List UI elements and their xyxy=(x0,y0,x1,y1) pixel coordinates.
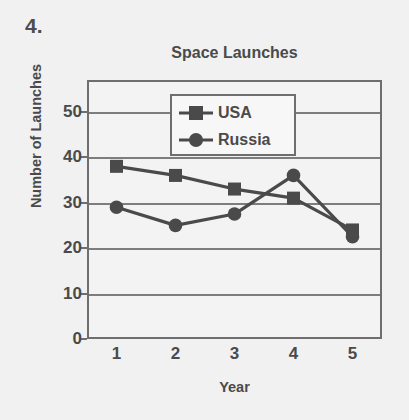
y-axis-tick-labels: 01020304050 xyxy=(38,80,82,339)
data-point-russia-2 xyxy=(169,219,183,233)
x-tick-label-1: 1 xyxy=(97,344,137,364)
x-axis-tick-labels: 12345 xyxy=(87,344,382,372)
y-tick-label-30: 30 xyxy=(42,193,82,213)
x-tick-label-3: 3 xyxy=(215,344,255,364)
legend-item-usa: USA xyxy=(172,99,294,126)
data-point-usa-2 xyxy=(169,169,182,182)
data-point-russia-1 xyxy=(110,200,124,214)
legend-marker-square-icon xyxy=(178,103,214,123)
legend-item-russia: Russia xyxy=(172,126,294,153)
x-axis-title: Year xyxy=(87,379,382,395)
data-point-usa-4 xyxy=(287,192,300,205)
y-tick-label-20: 20 xyxy=(42,238,82,258)
legend-label-usa: USA xyxy=(218,104,252,122)
data-point-russia-5 xyxy=(346,230,360,244)
legend-label-russia: Russia xyxy=(218,131,270,149)
legend-marker-circle-icon xyxy=(178,130,214,150)
data-point-usa-1 xyxy=(110,160,123,173)
x-tick-label-2: 2 xyxy=(156,344,196,364)
worksheet-page: 4. Space Launches Number of Launches Yea… xyxy=(0,0,409,420)
x-tick-label-5: 5 xyxy=(333,344,373,364)
y-tick-label-0: 0 xyxy=(42,329,82,349)
data-point-usa-3 xyxy=(228,183,241,196)
data-point-russia-3 xyxy=(228,207,242,221)
y-tick-label-40: 40 xyxy=(42,147,82,167)
question-number: 4. xyxy=(25,14,43,38)
chart-title: Space Launches xyxy=(87,44,382,62)
data-point-russia-4 xyxy=(287,169,301,183)
y-tick-label-50: 50 xyxy=(42,102,82,122)
y-tick-label-10: 10 xyxy=(42,284,82,304)
chart-legend: USA Russia xyxy=(170,94,296,156)
x-tick-label-4: 4 xyxy=(274,344,314,364)
